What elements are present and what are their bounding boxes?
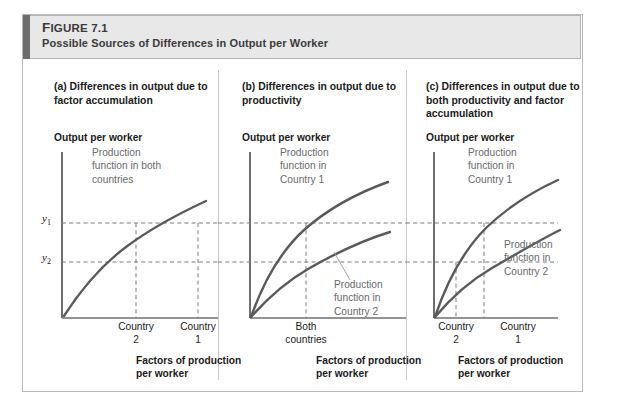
panel-c-x-label-country-2: Country 2 [422,320,490,346]
panel-c-x-label-country-1-line1: Country [484,320,552,333]
panel-a-annotation: Production function in both countries [92,146,162,186]
figure-header-accent-bar [23,15,30,59]
panel-b-x-label-both-countries-line2: countries [272,333,340,346]
panel-b-annotation-country-2: Production function in Country 2 [334,278,412,318]
panel-c-x-label-country-2-line2: 2 [422,333,490,346]
panel-c-x-label-country-2-line1: Country [422,320,490,333]
panel-a-x-label-country-2: Country 2 [102,320,170,346]
panel-c: (c) Differences in output due to both pr… [406,62,584,390]
panel-c-annotation-country-1: Production function in Country 1 [468,146,546,186]
figure-title: Possible Sources of Differences in Outpu… [42,37,328,49]
panel-b-annotation-country-1: Production function in Country 1 [280,146,358,186]
panel-c-x-label-country-1-line2: 1 [484,333,552,346]
figure-container: FIGURE 7.1 Possible Sources of Differenc… [0,0,619,408]
panel-a-x-label-country-2-line2: 2 [102,333,170,346]
panel-b-x-label-both-countries-line1: Both [272,320,340,333]
panel-c-annotation-country-2: Production function in Country 2 [504,238,582,278]
panel-c-x-label-country-1: Country 1 [484,320,552,346]
panel-a: (a) Differences in output due to factor … [30,62,218,390]
figure-number-rest: IGURE 7.1 [50,22,107,34]
panel-b-x-label-both-countries: Both countries [272,320,340,346]
panel-a-production-function-curve [64,201,206,316]
figure-number: FIGURE 7.1 [42,20,108,35]
panel-b: (b) Differences in output due to product… [218,62,406,390]
panel-b-country2-leader-line [334,252,350,280]
panel-a-y1-tick-label: y1 [42,212,51,227]
panel-a-y2-tick-label: y2 [42,251,51,266]
panel-c-x-axis-title: Factors of production per worker [458,354,570,380]
panel-a-x-label-country-2-line1: Country [102,320,170,333]
